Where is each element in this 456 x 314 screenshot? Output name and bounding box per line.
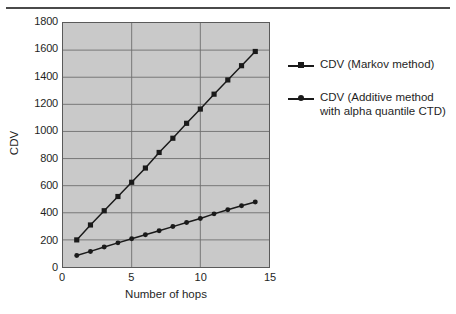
data-point-square (157, 150, 162, 155)
data-point-square (102, 208, 107, 213)
legend-label: CDV (Markov method) (314, 58, 434, 72)
x-tick-label: 5 (116, 271, 146, 283)
y-tick-label: 800 (18, 153, 58, 164)
data-point-circle (198, 216, 203, 221)
y-tick-label: 1800 (18, 16, 58, 27)
data-point-square (211, 92, 216, 97)
data-point-circle (143, 232, 148, 237)
data-point-circle (74, 253, 79, 258)
plot-area (62, 22, 270, 268)
data-point-square (225, 77, 230, 82)
data-point-square (88, 222, 93, 227)
data-point-square (74, 237, 79, 242)
data-point-square (198, 106, 203, 111)
chart-figure: 020040060080010001200140016001800 051015… (0, 0, 456, 314)
x-tick-label: 15 (255, 271, 285, 283)
data-point-square (184, 121, 189, 126)
x-axis-title: Number of hops (62, 288, 270, 300)
y-tick-label: 1000 (18, 125, 58, 136)
y-tick-label: 600 (18, 180, 58, 191)
legend-entry[interactable]: CDV (Markov method) (288, 58, 454, 72)
data-point-circle (157, 228, 162, 233)
data-point-circle (225, 207, 230, 212)
data-point-circle (129, 236, 134, 241)
data-point-square (129, 180, 134, 185)
legend-label: CDV (Additive method with alpha quantile… (314, 91, 446, 118)
x-tick-label: 10 (186, 271, 216, 283)
data-point-square (239, 63, 244, 68)
legend-entry[interactable]: CDV (Additive method with alpha quantile… (288, 91, 454, 118)
data-point-circle (239, 203, 244, 208)
y-tick-label: 1600 (18, 43, 58, 54)
y-tick-label: 1200 (18, 98, 58, 109)
data-point-square (170, 136, 175, 141)
data-point-circle (253, 199, 258, 204)
y-axis-title: CDV (8, 120, 20, 166)
series-layer (74, 49, 258, 258)
data-point-square (115, 194, 120, 199)
x-tick-label: 0 (47, 271, 77, 283)
square-marker-icon (288, 59, 314, 72)
y-tick-label: 200 (18, 235, 58, 246)
circle-marker-icon (288, 92, 314, 105)
data-point-circle (115, 240, 120, 245)
data-point-square (143, 165, 148, 170)
data-point-circle (88, 249, 93, 254)
data-point-circle (212, 211, 217, 216)
data-point-circle (102, 244, 107, 249)
x-axis-tick-labels: 051015 (0, 271, 456, 287)
chart-legend: CDV (Markov method)CDV (Additive method … (288, 58, 454, 137)
data-point-circle (170, 224, 175, 229)
y-tick-label: 400 (18, 207, 58, 218)
data-point-circle (184, 220, 189, 225)
page-top-rule (6, 7, 450, 9)
data-point-square (253, 49, 258, 54)
y-tick-label: 1400 (18, 71, 58, 82)
plot-canvas (63, 23, 269, 267)
